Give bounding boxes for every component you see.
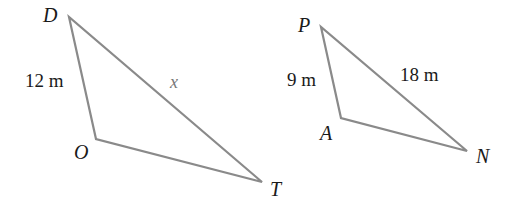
side-label-pn: 18 m (400, 64, 439, 85)
vertex-label-a: A (318, 122, 333, 144)
side-label-do: 12 m (25, 70, 64, 91)
vertex-label-o: O (74, 141, 88, 163)
vertex-label-d: D (42, 4, 58, 26)
similar-triangles-diagram: D O T 12 m x P A N 9 m 18 m (0, 0, 510, 205)
triangle-pan-outline (321, 27, 467, 151)
vertex-label-n: N (475, 145, 491, 167)
triangle-pan: P A N 9 m 18 m (287, 14, 491, 167)
vertex-label-p: P (297, 14, 310, 36)
side-label-dt-variable: x (169, 72, 178, 92)
triangle-dot-outline (69, 17, 262, 182)
vertex-label-t: T (270, 178, 283, 200)
side-label-pa: 9 m (287, 69, 316, 90)
triangle-dot: D O T 12 m x (25, 4, 283, 200)
